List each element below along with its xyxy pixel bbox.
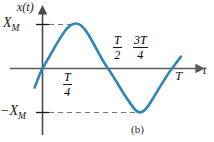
y-axis-label: x(t) (17, 1, 34, 13)
x-axis-label: t (203, 64, 206, 76)
amplitude-positive-label: XM (3, 16, 20, 33)
half-period-numerator: T (113, 34, 122, 46)
three-quarter-period-denominator: 4 (133, 49, 148, 61)
tick-label-half-period: T 2 (113, 34, 122, 61)
amplitude-positive-subscript: M (12, 23, 20, 33)
three-quarter-period-numerator: 3T (133, 34, 148, 46)
tick-label-three-quarter-period: 3T 4 (133, 34, 148, 61)
y-axis-label-arg: (t) (22, 0, 33, 14)
amplitude-positive-symbol: X (3, 15, 12, 30)
tick-label-period: T (175, 69, 182, 82)
figure-caption: (b) (131, 124, 144, 135)
oscillation-figure: x(t) t XM −XM T 4 T 2 3T 4 T (b) (0, 0, 214, 142)
quarter-period-numerator: T (63, 71, 72, 83)
amplitude-negative-label: −XM (0, 104, 26, 121)
tick-label-quarter-period: T 4 (63, 71, 72, 98)
amplitude-negative-symbol: −X (0, 103, 18, 118)
quarter-period-denominator: 4 (63, 86, 72, 98)
half-period-denominator: 2 (113, 49, 122, 61)
amplitude-negative-subscript: M (18, 111, 26, 121)
